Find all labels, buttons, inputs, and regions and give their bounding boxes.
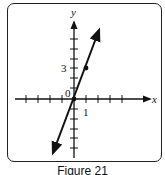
x-tick-label-1: 1 bbox=[83, 106, 89, 118]
graph: y x 3 0 1 bbox=[0, 0, 165, 175]
origin-label: 0 bbox=[65, 87, 71, 99]
y-tick-label-3: 3 bbox=[61, 62, 67, 74]
figure-caption: Figure 21 bbox=[0, 164, 165, 175]
y-axis-label: y bbox=[70, 6, 76, 18]
graph-line bbox=[53, 30, 99, 153]
x-axis-label: x bbox=[151, 93, 157, 105]
point-origin bbox=[72, 97, 77, 102]
point-1-3 bbox=[84, 66, 89, 71]
